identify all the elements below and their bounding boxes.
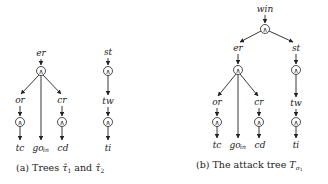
leaf-tc: tc	[16, 143, 25, 153]
svg-text:∧: ∧	[214, 119, 219, 127]
node-or: or	[15, 95, 25, 105]
panel-b-attack-tree: win ∧ er ∧ or ∧ tc go in cr ∧ cd st ∧	[196, 4, 303, 172]
svg-text:∧: ∧	[17, 119, 22, 127]
attack-tree-figure: er ∧ or ∧ tc go in cr ∧ cd st	[0, 0, 328, 184]
tree-tau2: st ∧ tw ∧ ti	[102, 47, 114, 153]
svg-text:∧: ∧	[262, 26, 267, 34]
leaf-tc: tc	[213, 140, 222, 150]
caption-b: (b) The attack tree Tσ1	[196, 159, 303, 172]
node-win: win	[257, 4, 274, 14]
svg-text:∧: ∧	[38, 68, 43, 76]
node-cr: cr	[57, 95, 67, 105]
svg-text:∧: ∧	[59, 119, 64, 127]
svg-text:∧: ∧	[235, 67, 240, 75]
node-tw: tw	[290, 98, 302, 108]
node-tw: tw	[102, 96, 114, 106]
leaf-cd: cd	[58, 143, 69, 153]
svg-text:∧: ∧	[293, 67, 298, 75]
panel-a-trees: er ∧ or ∧ tc go in cr ∧ cd st	[15, 47, 114, 174]
node-st: st	[104, 47, 113, 57]
svg-text:∧: ∧	[105, 119, 110, 127]
node-cr: cr	[254, 97, 264, 107]
svg-text:(b) The attack tree Tσ1: (b) The attack tree Tσ1	[196, 159, 303, 172]
leaf-ti: ti	[293, 140, 300, 150]
node-st: st	[292, 43, 301, 53]
svg-text:∧: ∧	[105, 68, 110, 76]
node-er: er	[233, 43, 243, 53]
svg-text:in: in	[240, 143, 246, 150]
svg-text:(a) Trees τ̂1 and τ̂2: (a) Trees τ̂1 and τ̂2	[16, 162, 104, 174]
leaf-cd: cd	[255, 140, 266, 150]
node-er: er	[36, 48, 46, 58]
node-or: or	[212, 97, 222, 107]
svg-text:∧: ∧	[256, 119, 261, 127]
svg-text:in: in	[43, 146, 49, 153]
svg-text:∧: ∧	[293, 119, 298, 127]
tree-tau1: er ∧ or ∧ tc go in cr ∧ cd	[15, 48, 69, 153]
caption-a: (a) Trees τ̂1 and τ̂2	[16, 162, 104, 174]
leaf-ti: ti	[105, 143, 112, 153]
